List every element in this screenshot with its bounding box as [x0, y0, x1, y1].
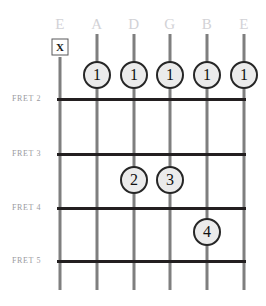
chord-diagram: EADGBE FRET 2FRET 3FRET 4FRET 5 X 111112… [0, 0, 266, 306]
fret-line-5 [57, 260, 246, 263]
finger-dot-1-string-E-high: 1 [230, 61, 258, 89]
fret-line-3 [57, 153, 246, 156]
finger-dot-1-string-G: 1 [156, 61, 184, 89]
finger-dot-2-string-D: 2 [120, 166, 148, 194]
finger-dot-3-string-G: 3 [156, 166, 184, 194]
fret-label-5: FRET 5 [12, 256, 41, 265]
string-label-5: B [202, 16, 213, 33]
string-label-4: G [164, 16, 175, 33]
string-label-6: E [239, 16, 249, 33]
fret-label-4: FRET 4 [12, 203, 41, 212]
finger-dot-1-string-A: 1 [83, 61, 111, 89]
mute-string-x-icon: X [52, 39, 69, 56]
fret-line-2 [57, 98, 246, 101]
string-label-3: D [128, 16, 139, 33]
fret-line-4 [57, 207, 246, 210]
fret-label-3: FRET 3 [12, 149, 41, 158]
string-label-1: E [55, 16, 65, 33]
string-label-2: A [91, 16, 102, 33]
finger-dot-1-string-B: 1 [193, 61, 221, 89]
finger-dot-1-string-D: 1 [120, 61, 148, 89]
finger-dot-4-string-B: 4 [193, 218, 221, 246]
string-line-1 [59, 57, 62, 290]
fret-label-2: FRET 2 [12, 94, 41, 103]
